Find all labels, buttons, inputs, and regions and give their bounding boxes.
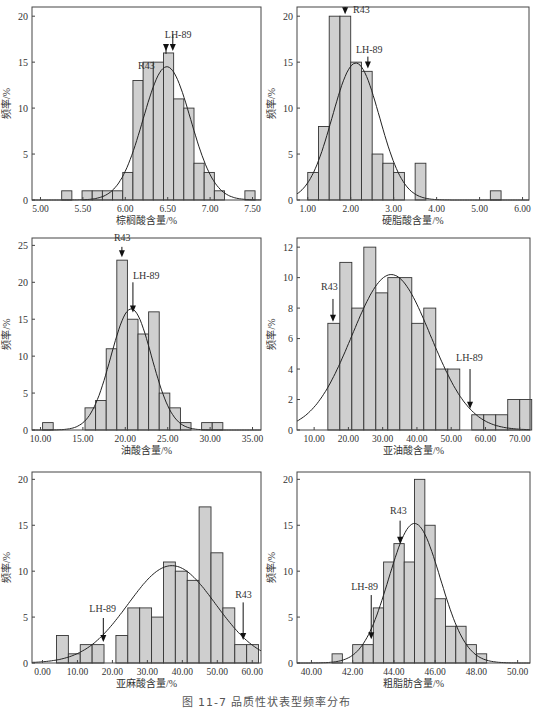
histogram-bar (245, 191, 255, 200)
histogram-bar (80, 645, 92, 663)
histogram-bar (211, 553, 223, 663)
histogram-bar (133, 81, 143, 200)
histogram-bar (43, 423, 54, 430)
annotation-r43: R43 (390, 505, 407, 543)
annotation-label: R43 (321, 281, 338, 292)
arrow-down-icon (163, 44, 169, 51)
histogram-bar (435, 599, 445, 663)
histogram-linolenic: 051015200.0010.0020.0030.0040.0050.0060.… (0, 472, 263, 689)
histogram-bars (308, 16, 501, 200)
annotation-label: LH-89 (133, 270, 160, 281)
x-tick-label: 5.00 (32, 204, 49, 214)
histogram-bar (113, 191, 123, 200)
x-tick-label: 6.50 (159, 204, 176, 214)
x-tick-label: 6.00 (117, 204, 134, 214)
histogram-bar (388, 278, 400, 430)
x-tick-label: 20.00 (115, 434, 137, 444)
x-axis-label: 油酸含量/% (121, 444, 172, 456)
histogram-bar (138, 334, 149, 430)
histogram-crude-fat: 0510152040.0042.0044.0046.0048.0050.00粗脂… (265, 472, 530, 689)
annotation-label: LH-89 (165, 29, 192, 40)
x-tick-label: 30.00 (372, 434, 394, 444)
y-tick-label: 20 (18, 11, 28, 22)
figure-caption: 图 11-7 品质性状表型频率分布 (0, 693, 533, 709)
histogram-bar (102, 191, 112, 200)
histogram-bar (235, 645, 247, 663)
histogram-oleic: 051015202510.0015.0020.0025.0030.0035.00… (0, 232, 263, 456)
x-tick-label: 60.00 (242, 667, 264, 677)
y-tick-label: 20 (18, 277, 28, 288)
x-axis-label: 亚油酸含量/% (383, 444, 444, 456)
x-tick-label: 46.00 (424, 667, 446, 677)
histogram-bar (127, 319, 138, 430)
x-tick-label: 10.00 (67, 667, 89, 677)
annotation-r43: R43 (114, 232, 131, 257)
histogram-bar (116, 635, 128, 663)
x-tick-label: 2.00 (342, 204, 359, 214)
histogram-bar (128, 608, 140, 663)
arrow-down-icon (100, 635, 106, 642)
histogram-bars (328, 247, 532, 430)
x-tick-label: 40.00 (172, 667, 194, 677)
y-tick-label: 0 (23, 195, 28, 206)
annotation-label: R43 (114, 232, 131, 243)
histogram-bar (143, 62, 153, 200)
histogram-bar (404, 562, 414, 663)
x-tick-label: 35.00 (242, 434, 264, 444)
histogram-bar (152, 617, 164, 663)
x-tick-label: 0.00 (34, 667, 51, 677)
x-tick-label: 20.00 (102, 667, 124, 677)
y-tick-label: 15 (18, 314, 28, 325)
arrow-down-icon (365, 62, 371, 69)
x-tick-label: 40.00 (406, 434, 428, 444)
y-tick-label: 0 (288, 195, 293, 206)
y-tick-label: 0 (23, 425, 28, 436)
histogram-bar (62, 191, 72, 200)
y-axis-label: 频率/% (265, 552, 277, 583)
histogram-bar (412, 323, 424, 430)
histogram-bar (376, 293, 388, 430)
histogram-bar (117, 260, 128, 430)
histogram-bar (364, 247, 376, 430)
histogram-bar (340, 16, 351, 200)
y-tick-label: 10 (283, 566, 293, 577)
arrow-down-icon (467, 402, 473, 409)
y-tick-label: 10 (18, 103, 28, 114)
y-tick-label: 2 (288, 394, 293, 405)
annotation-label: R43 (390, 505, 407, 516)
annotation-label: LH-89 (356, 44, 383, 55)
histogram-bar (184, 108, 194, 200)
arrow-down-icon (119, 250, 125, 257)
x-tick-label: 25.00 (157, 434, 179, 444)
x-tick-label: 20.00 (338, 434, 360, 444)
arrow-down-icon (397, 537, 403, 544)
x-tick-label: 44.00 (383, 667, 405, 677)
x-tick-label: 42.00 (342, 667, 364, 677)
y-tick-label: 5 (288, 149, 293, 160)
x-tick-label: 70.00 (509, 434, 531, 444)
y-tick-label: 10 (18, 351, 28, 362)
histogram-bar (149, 312, 160, 430)
y-tick-label: 15 (283, 57, 293, 68)
histogram-bar (194, 163, 204, 200)
x-tick-label: 1.00 (299, 204, 316, 214)
histogram-bar (340, 262, 352, 430)
y-tick-label: 5 (23, 149, 28, 160)
x-tick-label: 50.00 (507, 667, 529, 677)
annotation-r43: R43 (342, 4, 370, 15)
annotation-label: R43 (353, 4, 370, 15)
y-tick-label: 25 (18, 240, 28, 251)
y-tick-label: 10 (18, 566, 28, 577)
histogram-bar (308, 172, 319, 200)
x-axis-label: 硬脂酸含量/% (382, 214, 443, 226)
histogram-bar (490, 191, 501, 200)
histogram-bar (436, 369, 448, 430)
y-tick-label: 15 (18, 520, 28, 531)
histogram-bars (332, 479, 487, 663)
y-tick-label: 0 (288, 425, 293, 436)
annotation-lh-89: LH-89 (165, 29, 192, 51)
y-axis-label: 频率/% (0, 88, 12, 119)
annotation-lh-89: LH-89 (89, 603, 116, 641)
histogram-bar (352, 308, 364, 430)
